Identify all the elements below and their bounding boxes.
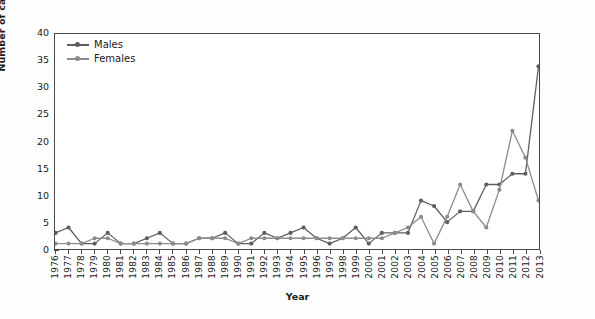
x-tick-mark	[238, 250, 239, 254]
data-point	[132, 242, 136, 246]
data-point	[380, 236, 384, 240]
x-tick-label: 2009	[482, 255, 492, 279]
x-tick-label: 2001	[377, 255, 387, 279]
y-tick-label: 20	[21, 136, 49, 147]
data-point	[484, 225, 488, 229]
data-point	[432, 242, 436, 246]
x-tick-label: 1978	[76, 255, 86, 279]
x-tick-mark	[264, 250, 265, 254]
data-point	[236, 242, 240, 246]
x-tick-mark	[212, 250, 213, 254]
x-tick-mark	[422, 250, 423, 254]
y-tick-label: 15	[21, 163, 49, 174]
y-tick-label: 40	[21, 27, 49, 38]
x-tick-label: 1985	[167, 255, 177, 279]
data-point	[367, 236, 371, 240]
chart-legend: MalesFemales	[67, 38, 135, 66]
data-point	[55, 242, 58, 246]
data-point	[93, 242, 97, 246]
data-point	[380, 231, 384, 235]
legend-item-females[interactable]: Females	[67, 52, 135, 65]
data-point	[184, 242, 188, 246]
x-tick-label: 2002	[390, 255, 400, 279]
y-tick-label: 30	[21, 81, 49, 92]
x-tick-label: 2000	[364, 255, 374, 279]
x-tick-mark	[448, 250, 449, 254]
x-tick-label: 2005	[430, 255, 440, 279]
data-point	[249, 236, 253, 240]
series-lines	[55, 34, 539, 249]
x-tick-mark	[290, 250, 291, 254]
x-tick-label: 1981	[115, 255, 125, 279]
x-tick-mark	[81, 250, 82, 254]
x-tick-label: 1991	[246, 255, 256, 279]
data-point	[171, 242, 175, 246]
data-point	[106, 231, 110, 235]
x-tick-label: 1995	[299, 255, 309, 279]
data-point	[275, 236, 279, 240]
x-tick-label: 2010	[495, 255, 505, 279]
legend-marker-icon	[67, 39, 89, 50]
x-tick-label: 1977	[63, 255, 73, 279]
x-tick-label: 1997	[325, 255, 335, 279]
x-tick-mark	[94, 250, 95, 254]
data-point	[445, 215, 449, 219]
data-point	[249, 242, 253, 246]
x-tick-label: 2003	[403, 255, 413, 279]
x-tick-mark	[395, 250, 396, 254]
data-point	[341, 236, 345, 240]
data-point	[458, 209, 462, 213]
x-tick-mark	[408, 250, 409, 254]
legend-marker-icon	[67, 53, 89, 64]
x-tick-label: 1986	[181, 255, 191, 279]
series-line-males	[55, 66, 538, 243]
y-tick-label: 5	[21, 217, 49, 228]
x-tick-mark	[526, 250, 527, 254]
x-tick-mark	[435, 250, 436, 254]
data-point	[536, 64, 539, 68]
data-point	[484, 182, 488, 186]
legend-item-males[interactable]: Males	[67, 38, 135, 51]
x-tick-mark	[68, 250, 69, 254]
data-point	[145, 236, 149, 240]
x-tick-mark	[146, 250, 147, 254]
data-point	[458, 182, 462, 186]
x-tick-mark	[251, 250, 252, 254]
data-point	[419, 199, 423, 203]
data-point	[55, 231, 58, 235]
data-point	[419, 215, 423, 219]
x-tick-label: 1999	[351, 255, 361, 279]
legend-label: Males	[94, 39, 123, 50]
data-point	[93, 236, 97, 240]
data-point	[523, 172, 527, 176]
data-point	[328, 242, 332, 246]
x-tick-label: 1979	[89, 255, 99, 279]
data-point	[367, 242, 371, 246]
x-tick-label: 1992	[259, 255, 269, 279]
data-point	[80, 242, 84, 246]
data-point	[406, 231, 410, 235]
data-point	[106, 236, 110, 240]
data-point	[262, 231, 266, 235]
x-tick-label: 1993	[272, 255, 282, 279]
data-point	[119, 242, 123, 246]
x-tick-label: 2012	[521, 255, 531, 279]
x-tick-mark	[159, 250, 160, 254]
data-point	[288, 236, 292, 240]
x-tick-label: 1983	[141, 255, 151, 279]
data-point	[497, 188, 501, 192]
x-tick-label: 2007	[456, 255, 466, 279]
data-point	[223, 236, 227, 240]
x-tick-mark	[186, 250, 187, 254]
y-tick-label: 25	[21, 108, 49, 119]
x-tick-mark	[461, 250, 462, 254]
data-point	[328, 236, 332, 240]
x-tick-label: 2008	[469, 255, 479, 279]
x-tick-label: 1987	[194, 255, 204, 279]
data-point	[158, 231, 162, 235]
x-tick-mark	[199, 250, 200, 254]
x-tick-label: 1998	[338, 255, 348, 279]
chart-page: Number of cases 0510152025303540 MalesFe…	[0, 0, 595, 319]
x-tick-label: 1989	[220, 255, 230, 279]
data-point	[406, 225, 410, 229]
